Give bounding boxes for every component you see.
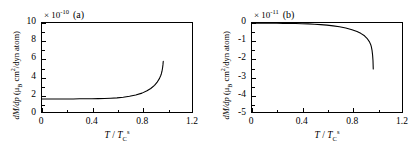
panel-b-curve [252, 23, 402, 112]
panel-a-ytick-mark-9 [42, 32, 45, 33]
panel-b-ytick-mark-m1 [252, 41, 256, 42]
panel-b-y-tick-2: -3 [238, 72, 246, 82]
panel-b-ytick-mark-m3 [252, 78, 256, 79]
panel-a-x-tick-1: 0.4 [86, 116, 98, 126]
panel-b-xtick-mark-04 [303, 108, 304, 112]
panel-a: × 10-10(a) dM/dp (μB cm2/dyn atom) 0 2 4… [0, 0, 210, 145]
panel-a-xtick-mark-10 [169, 110, 170, 113]
panel-b-ytick-mark-m05 [252, 32, 255, 33]
panel-a-xtick-mark-08 [143, 108, 144, 112]
panel-a-y-tick-4: 8 [31, 35, 36, 45]
panel-b-letter: (b) [283, 9, 295, 20]
panel-b-ytick-mark-m4 [252, 96, 256, 97]
panel-a-letter: (a) [73, 9, 84, 20]
panel-b-y-tick-0: -5 [238, 108, 246, 118]
panel-b-x-tick-3: 1.2 [396, 116, 408, 126]
panel-b-ytick-mark-m35 [252, 87, 255, 88]
panel-a-y-tick-5: 10 [27, 17, 37, 27]
panel-a-y-tick-3: 6 [31, 54, 36, 64]
panel-b-ytick-mark-m15 [252, 50, 255, 51]
panel-a-plot-area [42, 23, 192, 112]
panel-b-y-tick-5: 0 [241, 17, 246, 27]
figure-container: × 10-10(a) dM/dp (μB cm2/dyn atom) 0 2 4… [0, 0, 420, 145]
panel-b-x-title-tc-sub: C [333, 135, 337, 142]
panel-b-x-tick-2: 0.8 [346, 116, 358, 126]
panel-b-ytick-mark-0 [252, 23, 256, 24]
panel-b-x-axis-title: T / TCs [251, 126, 403, 144]
panel-b-xtick-mark-02 [277, 110, 278, 113]
panel-b-y-ticklabels: -5 -4 -3 -2 -1 0 [210, 22, 248, 113]
panel-a-x-title-slash: / [110, 130, 117, 140]
panel-a-x-tick-0: 0 [39, 116, 44, 126]
panel-b-ytick-mark-m2 [252, 59, 256, 60]
panel-b-x-title-tc-group: TCs [327, 126, 339, 144]
panel-a-y-tick-0: 0 [31, 108, 36, 118]
panel-b-exponent-power: -11 [270, 8, 278, 15]
panel-a-xtick-mark-02 [67, 110, 68, 113]
panel-b-exponent-row: × 10-11(b) [254, 6, 294, 21]
panel-a-ytick-mark-8 [42, 41, 46, 42]
panel-a-ytick-mark-7 [42, 50, 45, 51]
panel-a-x-tick-3: 1.2 [186, 116, 198, 126]
panel-b-xtick-mark-12 [402, 108, 403, 112]
panel-a-ytick-mark-4 [42, 78, 46, 79]
panel-a-ytick-mark-10 [42, 23, 46, 24]
panel-a-y-tick-2: 4 [31, 72, 36, 82]
panel-a-y-tick-1: 2 [31, 90, 36, 100]
panel-b-x-title-slash: / [320, 130, 327, 140]
panel-b-y-tick-4: -1 [238, 35, 246, 45]
panel-b: × 10-11(b) dM/dp (μB cm2/dyn atom) -5 -4… [210, 0, 420, 145]
panel-a-xtick-mark-04 [93, 108, 94, 112]
panel-a-ytick-mark-1 [42, 105, 45, 106]
panel-b-y-title-d: d [221, 115, 231, 119]
panel-a-x-title-tc-sup: s [127, 128, 130, 135]
panel-b-ytick-mark-m45 [252, 105, 255, 106]
panel-b-y-tick-1: -4 [238, 90, 246, 100]
panel-a-y-title-d: d [11, 115, 21, 119]
panel-a-y-ticklabels: 0 2 4 6 8 10 [0, 22, 38, 113]
panel-a-plot-frame [41, 22, 193, 113]
panel-a-exponent-row: × 10-10(a) [44, 6, 84, 21]
panel-b-xtick-mark-06 [328, 110, 329, 113]
panel-a-curve [42, 23, 192, 112]
panel-b-x-title-tc-sup: s [337, 128, 340, 135]
panel-b-x-tick-1: 0.4 [296, 116, 308, 126]
panel-a-exponent-prefix: × 10 [44, 10, 60, 20]
panel-b-plot-frame [251, 22, 403, 113]
panel-a-xtick-mark-0 [42, 108, 43, 112]
panel-b-y-tick-3: -2 [238, 54, 246, 64]
panel-a-ytick-mark-5 [42, 69, 45, 70]
panel-a-x-title-tc-sub: C [123, 135, 127, 142]
panel-b-exponent-prefix: × 10 [254, 10, 270, 20]
panel-a-x-tick-2: 0.8 [136, 116, 148, 126]
panel-b-x-tick-0: 0 [249, 116, 254, 126]
panel-a-xtick-mark-12 [192, 108, 193, 112]
panel-a-ytick-mark-3 [42, 87, 45, 88]
panel-a-x-title-tc-group: TCs [117, 126, 129, 144]
panel-a-ytick-mark-6 [42, 59, 46, 60]
panel-a-x-axis-title: T / TCs [41, 126, 193, 144]
panel-b-plot-area [252, 23, 402, 112]
panel-b-xtick-mark-10 [379, 110, 380, 113]
panel-a-exponent-power: -10 [60, 8, 69, 15]
panel-a-ytick-mark-2 [42, 96, 46, 97]
panel-a-xtick-mark-06 [118, 110, 119, 113]
panel-b-xtick-mark-0 [252, 108, 253, 112]
panel-b-xtick-mark-08 [353, 108, 354, 112]
panel-b-ytick-mark-m25 [252, 69, 255, 70]
